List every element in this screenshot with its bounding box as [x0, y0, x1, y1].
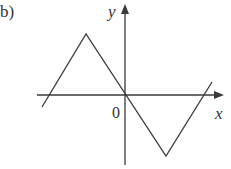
- graph-svg: b) y 0 x: [0, 0, 231, 169]
- y-axis-label: y: [106, 2, 116, 21]
- figure-canvas: b) y 0 x: [0, 0, 231, 169]
- x-axis: [37, 91, 224, 99]
- x-axis-label: x: [214, 104, 223, 123]
- x-axis-arrow-icon: [214, 91, 224, 99]
- origin-label: 0: [112, 104, 120, 121]
- y-axis-arrow-icon: [121, 4, 129, 14]
- figure-label: b): [0, 2, 14, 21]
- y-axis: [121, 4, 129, 165]
